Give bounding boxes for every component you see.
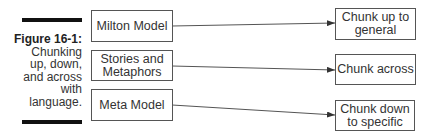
box-label: Meta Model bbox=[99, 99, 164, 112]
target-box-chunk-up: Chunk up to general bbox=[335, 8, 416, 40]
box-label: Milton Model bbox=[97, 20, 168, 33]
arrow-stories-to-chunk-across bbox=[172, 66, 335, 70]
box-label: Metaphors bbox=[102, 66, 161, 79]
target-box-chunk-across: Chunk across bbox=[335, 54, 416, 85]
source-box-meta-model: Meta Model bbox=[91, 89, 173, 121]
source-box-milton-model: Milton Model bbox=[91, 10, 173, 42]
box-label: general bbox=[355, 24, 397, 37]
arrow-milton-to-chunk-up bbox=[172, 23, 335, 26]
box-label: Stories and bbox=[100, 53, 163, 66]
box-label: Chunk down bbox=[340, 103, 410, 116]
target-box-chunk-down: Chunk down to specific bbox=[335, 100, 415, 131]
box-label: to specific bbox=[347, 116, 403, 129]
source-box-stories-and-metaphors: Stories and Metaphors bbox=[91, 50, 173, 81]
box-label: Chunk across bbox=[337, 63, 413, 76]
arrow-meta-to-chunk-down bbox=[172, 105, 335, 115]
